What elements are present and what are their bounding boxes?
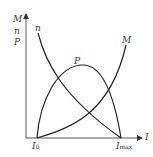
curve-label-m: M [122,36,131,45]
curve-n [38,33,121,138]
y-label-m: M [13,15,22,24]
y-label-p: P [14,38,20,47]
x-axis-label: I [145,133,149,142]
x-tick-imax: Imax [116,142,132,151]
curve-label-p: P [74,57,80,66]
diagram-canvas [0,0,153,157]
x-tick-imax-sub: max [120,143,133,150]
y-label-n: n [14,27,20,36]
curve-m [37,45,126,138]
curve-p [37,65,121,138]
x-tick-i0-sub: 0 [36,143,40,150]
x-tick-i0: I0 [32,142,39,151]
curve-label-n: n [35,24,41,33]
